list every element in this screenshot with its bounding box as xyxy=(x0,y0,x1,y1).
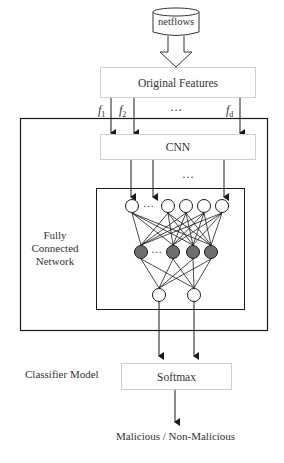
input-node xyxy=(180,200,193,213)
input-node xyxy=(216,200,229,213)
output-class-label: Malicious / Non-Malicious xyxy=(116,431,235,442)
hidden-node xyxy=(167,246,180,259)
feature-label-f2: f2 xyxy=(119,104,126,119)
cnn-box: CNN xyxy=(100,134,256,160)
fc-hidden-layer xyxy=(135,246,218,259)
cnn-label: CNN xyxy=(166,141,190,153)
input-node xyxy=(162,200,175,213)
feature-label-fd: fd xyxy=(226,104,233,119)
softmax-box: Softmax xyxy=(121,363,232,390)
cnn-ellipsis: … xyxy=(182,168,194,180)
hidden-node xyxy=(135,246,148,259)
fc-connections-input-hidden xyxy=(132,213,222,245)
cnn-output-arrows xyxy=(131,159,224,197)
hollow-arrow-icon xyxy=(160,36,192,67)
fc-input-layer xyxy=(126,200,229,213)
input-layer-ellipsis: … xyxy=(143,198,154,209)
softmax-label: Softmax xyxy=(157,371,196,383)
netflows-label: netflows xyxy=(158,17,194,28)
hidden-node xyxy=(205,246,218,259)
classifier-model-label: Classifier Model xyxy=(25,369,99,380)
feature-label-f1: f1 xyxy=(98,104,105,119)
hidden-layer-ellipsis: … xyxy=(151,244,162,255)
fc-connections-hidden-output xyxy=(141,259,211,288)
input-node xyxy=(198,200,211,213)
fc-output-arrows xyxy=(159,302,194,356)
input-node xyxy=(126,200,139,213)
fc-network-label: Fully Connected Network xyxy=(30,229,80,268)
hidden-node xyxy=(187,246,200,259)
fc-output-layer xyxy=(153,289,201,302)
original-features-label: Original Features xyxy=(138,77,218,89)
output-node xyxy=(188,289,201,302)
original-features-box: Original Features xyxy=(100,67,256,98)
feature-ellipsis: … xyxy=(170,101,182,113)
output-node xyxy=(153,289,166,302)
